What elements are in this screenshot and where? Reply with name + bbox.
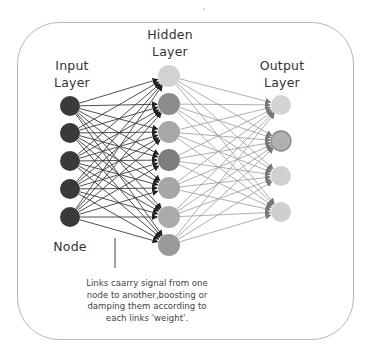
link bbox=[179, 110, 271, 155]
link bbox=[76, 86, 162, 209]
link bbox=[79, 194, 159, 239]
hidden-node bbox=[158, 149, 180, 171]
link bbox=[180, 104, 270, 105]
output-node bbox=[271, 95, 291, 115]
hidden-node bbox=[158, 177, 180, 199]
hidden-node bbox=[158, 206, 180, 228]
input-node bbox=[60, 96, 80, 116]
link bbox=[180, 215, 271, 242]
link bbox=[178, 182, 271, 239]
link bbox=[180, 143, 270, 158]
input-node bbox=[60, 151, 80, 171]
input-node bbox=[60, 179, 80, 199]
input-layer-label-line1: Input bbox=[44, 57, 100, 74]
link bbox=[179, 180, 270, 213]
link bbox=[178, 112, 272, 182]
link bbox=[179, 136, 271, 172]
links-input-hidden bbox=[76, 79, 162, 241]
node-label: Node bbox=[48, 238, 92, 255]
input-node bbox=[60, 207, 80, 227]
output-node bbox=[271, 131, 291, 151]
hidden-node bbox=[158, 234, 180, 256]
hidden-node bbox=[158, 121, 180, 143]
caption-line: node to another,boosting or bbox=[52, 290, 242, 302]
hidden-layer-label-line1: Hidden bbox=[140, 26, 200, 43]
output-layer-label-line1: Output bbox=[252, 57, 312, 74]
caption: Links caarry signal from one node to ano… bbox=[52, 278, 242, 324]
link bbox=[177, 113, 273, 209]
output-layer-label-line2: Layer bbox=[252, 74, 312, 91]
output-node bbox=[271, 166, 291, 186]
link bbox=[179, 145, 271, 183]
caption-line: Links caarry signal from one bbox=[52, 278, 242, 290]
hidden-node bbox=[158, 93, 180, 115]
caption-line: damping them according to bbox=[52, 301, 242, 313]
hidden-layer-label: Hidden Layer bbox=[140, 26, 200, 60]
links-hidden-output bbox=[176, 79, 274, 242]
output-layer-label: Output Layer bbox=[252, 57, 312, 91]
link bbox=[180, 133, 270, 140]
input-node bbox=[60, 123, 80, 143]
input-layer-label-line2: Layer bbox=[44, 74, 100, 91]
input-layer-label: Input Layer bbox=[44, 57, 100, 91]
hidden-node bbox=[158, 65, 180, 87]
hidden-layer-label-line2: Layer bbox=[140, 43, 200, 60]
output-node bbox=[271, 202, 291, 222]
caption-line: each links 'weight'. bbox=[52, 313, 242, 325]
